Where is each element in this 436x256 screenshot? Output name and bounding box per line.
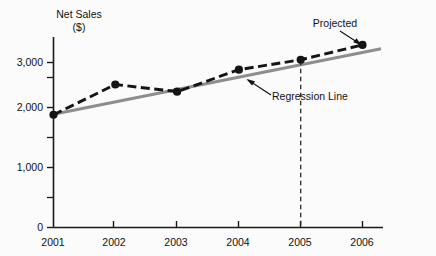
net-sales-point-2003 — [173, 88, 181, 96]
x-axis-ticks — [114, 221, 363, 228]
net-sales-point-2001 — [49, 111, 57, 119]
x-axis-labels: 2001 2002 2003 2004 2005 2006 — [41, 236, 374, 248]
x-tick-label-2004: 2004 — [226, 236, 250, 248]
net-sales-point-2005 — [297, 56, 305, 64]
y-axis-labels: 0 1,000 2,000 3,000 — [17, 56, 43, 233]
chart-title-line1: Net Sales — [56, 8, 102, 20]
y-tick-label-1000: 1,000 — [17, 161, 43, 173]
axes — [54, 37, 384, 228]
x-tick-label-2002: 2002 — [102, 236, 126, 248]
net-sales-point-2002 — [111, 80, 119, 88]
x-tick-label-2005: 2005 — [288, 236, 312, 248]
chart-container: Net Sales ($) 0 1,000 2,000 3,000 — [0, 0, 436, 256]
regression-line-series — [54, 49, 382, 114]
net-sales-point-2006 — [358, 41, 366, 49]
x-tick-label-2006: 2006 — [350, 236, 374, 248]
regression-line-annotation: Regression Line — [246, 79, 348, 102]
projected-annotation: Projected — [313, 17, 362, 45]
y-tick-label-2000: 2,000 — [17, 101, 43, 113]
projected-label: Projected — [313, 17, 358, 29]
regression-line-label: Regression Line — [272, 90, 348, 102]
y-tick-label-0: 0 — [37, 221, 43, 233]
net-sales-regression-chart: Net Sales ($) 0 1,000 2,000 3,000 — [0, 0, 436, 256]
x-tick-label-2001: 2001 — [41, 236, 65, 248]
net-sales-point-2004 — [235, 66, 243, 74]
x-tick-label-2003: 2003 — [164, 236, 188, 248]
regression-arrow-head — [246, 79, 255, 86]
chart-title-line2: ($) — [73, 21, 86, 33]
y-axis-ticks — [47, 63, 54, 228]
y-tick-label-3000: 3,000 — [17, 56, 43, 68]
